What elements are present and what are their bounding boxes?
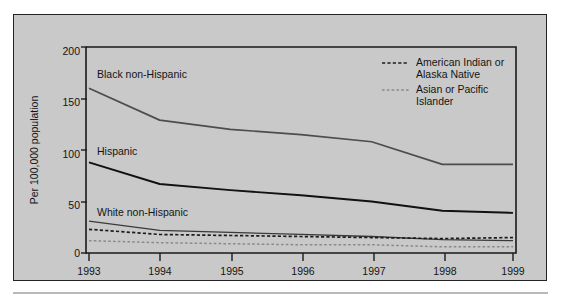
series-label-white-non-hispanic: White non-Hispanic — [97, 206, 188, 218]
x-tick-label-1997: 1997 — [362, 265, 386, 277]
legend-label-asian-pacific-line1: Asian or Pacific — [416, 83, 488, 95]
series-line-asian-pacific-islander — [89, 241, 513, 247]
legend-label-american-indian-line2: Alaska Native — [416, 68, 480, 80]
legend-label-american-indian-line1: American Indian or — [416, 56, 505, 68]
figure-container: Per 100,000 population 0 50 100 150 200 … — [0, 0, 563, 304]
x-tick-label-1994: 1994 — [148, 265, 172, 277]
series-label-black-non-hispanic: Black non-Hispanic — [97, 68, 187, 80]
x-tick-label-1995: 1995 — [220, 265, 244, 277]
legend-label-asian-pacific-line2: Islander — [416, 95, 454, 107]
series-line-white-non-hispanic — [89, 221, 513, 241]
y-tick-label-50: 50 — [68, 199, 80, 211]
y-axis-label: Per 100,000 population — [28, 96, 40, 205]
x-tick-label-1993: 1993 — [77, 265, 101, 277]
y-tick-label-0: 0 — [74, 247, 80, 259]
x-tick-label-1999: 1999 — [501, 265, 525, 277]
line-chart: Per 100,000 population 0 50 100 150 200 … — [0, 0, 563, 304]
y-tick-label-200: 200 — [62, 45, 80, 57]
chart-legend: American Indian or Alaska Native Asian o… — [382, 56, 505, 107]
x-tick-label-1996: 1996 — [291, 265, 315, 277]
y-tick-label-150: 150 — [62, 96, 80, 108]
y-tick-label-100: 100 — [62, 148, 80, 160]
x-tick-label-1998: 1998 — [433, 265, 457, 277]
series-label-hispanic: Hispanic — [97, 145, 137, 157]
